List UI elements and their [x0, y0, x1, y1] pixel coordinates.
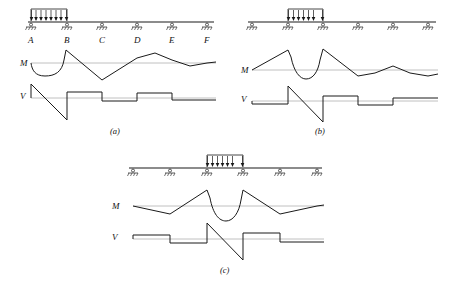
distributed-load-c [206, 155, 245, 167]
support-C [97, 23, 108, 30]
support-label-D: D [133, 35, 141, 45]
support-E [167, 23, 178, 30]
supports-b [247, 23, 434, 30]
support-D [353, 23, 364, 30]
shear-curve-a [31, 84, 216, 120]
distributed-load-a [30, 9, 69, 21]
support-label-F: F [203, 35, 210, 45]
support-E [388, 23, 399, 30]
support-B [165, 169, 176, 176]
moment-label-b: M [240, 65, 249, 75]
distributed-load-b [287, 9, 325, 21]
figure-panel-b: M V (b) [230, 0, 460, 146]
panel-b-svg: M V (b) [230, 0, 460, 146]
support-A [128, 169, 139, 176]
support-C [318, 23, 329, 30]
panel-a-svg: A B C D E F M V (a) [0, 0, 230, 146]
support-D [132, 23, 143, 30]
support-A [247, 23, 258, 30]
support-D [238, 169, 249, 176]
support-A [26, 23, 37, 30]
supports-c [128, 169, 323, 176]
shear-label-a: V [20, 91, 27, 101]
support-label-E: E [168, 35, 175, 45]
moment-label-a: M [19, 58, 28, 68]
support-C [202, 169, 213, 176]
panel-c-svg: M V (c) [100, 146, 360, 292]
moment-curve-b [252, 49, 438, 79]
support-F [423, 23, 434, 30]
moment-curve-a [31, 50, 216, 80]
panel-caption-b: (b) [315, 126, 325, 136]
shear-label-b: V [241, 94, 248, 104]
support-label-C: C [99, 35, 106, 45]
figure-panel-a: A B C D E F M V (a) [0, 0, 230, 146]
load-arrows-c [206, 156, 245, 167]
support-label-B: B [64, 35, 70, 45]
figure-panel-c: M V (c) [100, 146, 360, 292]
panel-caption-c: (c) [220, 265, 230, 275]
shear-curve-b [252, 86, 438, 122]
support-F [312, 169, 323, 176]
shear-curve-c [133, 223, 324, 260]
load-arrows-a [30, 10, 69, 21]
panel-caption-a: (a) [110, 126, 120, 136]
support-B [283, 23, 294, 30]
moment-label-c: M [111, 201, 120, 211]
supports-a [26, 23, 213, 30]
shear-label-c: V [112, 232, 119, 242]
support-E [275, 169, 286, 176]
support-label-A: A [27, 35, 34, 45]
moment-curve-c [133, 190, 324, 221]
support-F [202, 23, 213, 30]
load-arrows-b [287, 10, 325, 21]
support-B [62, 23, 73, 30]
